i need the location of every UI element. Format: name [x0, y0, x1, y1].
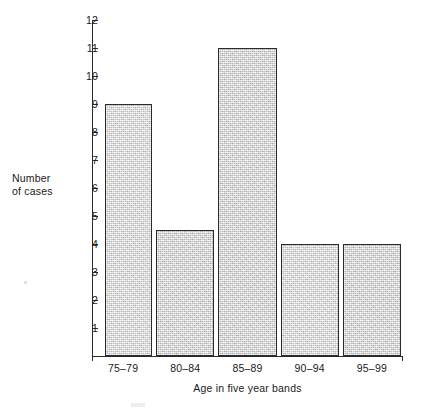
bar-90–94 [281, 244, 339, 356]
x-axis-line [92, 356, 403, 357]
x-axis-tick-left [92, 356, 93, 361]
bar-80–84 [156, 230, 214, 356]
x-axis-label-80–84: 80–84 [154, 362, 216, 374]
bar-95–99 [343, 244, 401, 356]
histogram-figure: 123456789101112 75–7980–8485–8990–9495–9… [0, 0, 430, 408]
bar-75–79 [105, 104, 152, 356]
y-axis-title-line-1: Number [12, 172, 51, 184]
x-axis-title: Age in five year bands [92, 382, 403, 394]
x-axis-label-95–99: 95–99 [341, 362, 403, 374]
x-axis-label-85–89: 85–89 [216, 362, 278, 374]
y-axis-title-line-2: of cases [12, 185, 74, 198]
bar-85–89 [218, 48, 276, 356]
scan-artifact-dot [24, 281, 27, 284]
x-axis-tick-right [402, 356, 403, 361]
y-axis-title: Number of cases [12, 172, 74, 198]
scan-artifact-smudge [131, 403, 145, 407]
x-axis-label-75–79: 75–79 [92, 362, 154, 374]
plot-area [92, 20, 403, 356]
x-axis-label-90–94: 90–94 [279, 362, 341, 374]
